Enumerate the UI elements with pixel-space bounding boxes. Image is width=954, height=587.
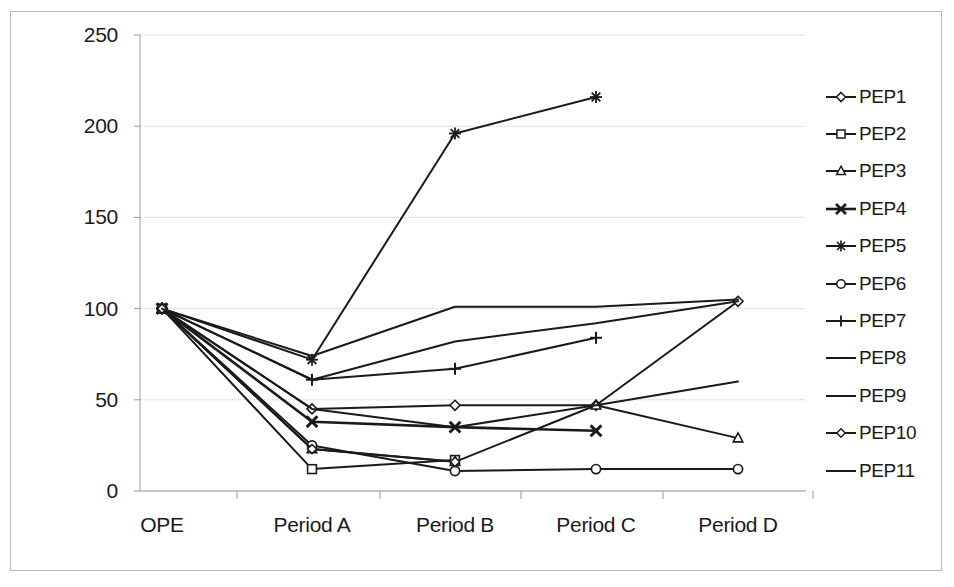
- legend-item-pep6[interactable]: PEP6: [824, 265, 944, 302]
- x-tick-label: OPE: [140, 513, 183, 537]
- legend-item-pep8[interactable]: PEP8: [824, 340, 944, 377]
- legend-item-pep10[interactable]: PEP10: [824, 415, 944, 452]
- y-tick-label: 150: [40, 205, 118, 229]
- legend-item-pep9[interactable]: PEP9: [824, 377, 944, 414]
- legend-marker-plus-icon: [824, 311, 858, 331]
- legend-label: PEP1: [859, 86, 906, 108]
- legend-marker-diamond-icon: [824, 87, 858, 107]
- y-tick-label: 0: [40, 479, 118, 503]
- x-tick-label: Period C: [556, 513, 635, 537]
- x-axis-ticks: [237, 491, 813, 499]
- axis-lines: [140, 35, 806, 491]
- legend-item-pep3[interactable]: PEP3: [824, 153, 944, 190]
- legend-marker-square-icon: [824, 124, 858, 144]
- chart-legend: PEP1PEP2PEP3PEP4PEP5PEP6PEP7PEP8PEP9PEP1…: [824, 78, 944, 489]
- legend-marker-none-icon: [824, 386, 858, 406]
- legend-item-pep7[interactable]: PEP7: [824, 302, 944, 339]
- x-tick-label: Period A: [274, 513, 351, 537]
- legend-item-pep1[interactable]: PEP1: [824, 78, 944, 115]
- x-tick-label: Period D: [698, 513, 777, 537]
- chart-container: 250200150100500 OPEPeriod APeriod BPerio…: [0, 0, 954, 587]
- legend-marker-asterisk-icon: [824, 236, 858, 256]
- legend-label: PEP11: [859, 460, 915, 482]
- legend-label: PEP5: [859, 235, 906, 257]
- legend-label: PEP10: [859, 422, 916, 444]
- legend-label: PEP3: [859, 160, 906, 182]
- legend-marker-triangle-icon: [824, 161, 858, 181]
- legend-label: PEP7: [859, 310, 906, 332]
- y-tick-label: 250: [40, 23, 118, 47]
- legend-item-pep11[interactable]: PEP11: [824, 452, 944, 489]
- y-axis-ticks: [134, 35, 140, 491]
- legend-item-pep2[interactable]: PEP2: [824, 115, 944, 152]
- legend-label: PEP6: [859, 273, 906, 295]
- y-tick-label: 50: [40, 388, 118, 412]
- legend-item-pep5[interactable]: PEP5: [824, 228, 944, 265]
- legend-label: PEP2: [859, 123, 906, 145]
- legend-marker-none-icon: [824, 461, 858, 481]
- legend-label: PEP4: [859, 198, 906, 220]
- series-pep5: [156, 91, 602, 366]
- legend-label: PEP8: [859, 347, 906, 369]
- y-tick-label: 100: [40, 297, 118, 321]
- series-pep4: [157, 303, 602, 436]
- series-pep6: [157, 304, 742, 476]
- legend-marker-diamond-open-icon: [824, 423, 858, 443]
- legend-item-pep4[interactable]: PEP4: [824, 190, 944, 227]
- legend-marker-x-bold-icon: [824, 199, 858, 219]
- data-series-group: [156, 91, 743, 476]
- line-chart-plot: [0, 0, 954, 587]
- y-tick-label: 200: [40, 114, 118, 138]
- legend-label: PEP9: [859, 385, 906, 407]
- legend-marker-circle-icon: [824, 274, 858, 294]
- x-tick-label: Period B: [416, 513, 494, 537]
- series-pep8: [162, 299, 738, 356]
- gridlines: [140, 35, 806, 491]
- legend-marker-none-icon: [824, 348, 858, 368]
